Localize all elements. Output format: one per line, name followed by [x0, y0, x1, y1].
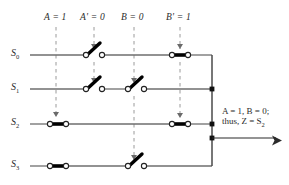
arrowhead-A [53, 112, 59, 117]
output-annotation-line2-text: thus, Z = S [222, 116, 262, 126]
control-column-Aprime [91, 27, 97, 83]
switch-terminal-right [63, 163, 68, 168]
row-S1 [30, 77, 212, 92]
output-annotation-line1: A = 1, B = 0; [222, 106, 269, 116]
arrowhead-Bprime-2 [177, 113, 183, 118]
column-label-B-prime: B' = 1 [166, 12, 191, 23]
row-label-S3: S3 [11, 158, 19, 171]
output-arrow [212, 136, 282, 146]
switch-terminal-left [47, 163, 52, 168]
switch-terminal-left [125, 86, 130, 91]
row-label-S2: S2 [11, 116, 19, 129]
row-S0 [30, 43, 212, 58]
switch-terminal-left [169, 121, 174, 126]
switch-S3-A-closed[interactable] [47, 163, 68, 168]
output-annotation: A = 1, B = 0; thus, Z = S2 [222, 106, 269, 129]
switch-terminal-right [141, 163, 146, 168]
row-label-S0: S0 [11, 47, 19, 60]
arrowhead-Bprime-1 [177, 44, 183, 49]
junction-dot-S1 [210, 87, 215, 92]
switch-S2-Bprime-closed[interactable] [169, 121, 190, 126]
switch-terminal-right [99, 86, 104, 91]
column-label-A: A = 1 [44, 12, 67, 23]
switch-terminal-right [99, 52, 104, 57]
output-bus [210, 55, 215, 166]
output-annotation-line2-sub: 2 [262, 121, 265, 128]
switch-terminal-right [141, 86, 146, 91]
control-column-B [131, 27, 137, 160]
output-arrowhead [272, 136, 282, 146]
switch-terminal-right [185, 52, 190, 57]
column-label-B: B = 0 [121, 12, 144, 23]
row-S2 [30, 121, 212, 126]
row-label-S3-sub: 3 [16, 164, 19, 171]
switch-terminal-left [169, 52, 174, 57]
column-label-A-prime: A' = 0 [80, 12, 105, 23]
row-label-S0-sub: 0 [16, 53, 19, 60]
switch-S0-Bprime-closed[interactable] [169, 52, 190, 57]
switch-S2-A-closed[interactable] [47, 121, 68, 126]
switch-terminal-right [63, 121, 68, 126]
control-column-A [53, 27, 59, 118]
diagram-canvas [0, 0, 289, 185]
row-label-S2-sub: 2 [16, 122, 19, 129]
switch-terminal-right [185, 121, 190, 126]
switch-terminal-left [83, 86, 88, 91]
switch-terminal-left [83, 52, 88, 57]
output-annotation-line2: thus, Z = S2 [222, 116, 269, 128]
row-label-S1-sub: 1 [16, 87, 19, 94]
row-label-S1: S1 [11, 81, 19, 94]
row-S3 [30, 154, 212, 169]
switch-terminal-left [125, 163, 130, 168]
switch-terminal-left [47, 121, 52, 126]
switch-network-diagram: Switch network implementing a 4-to-1 mul… [0, 0, 289, 185]
control-column-Bprime [177, 27, 183, 118]
junction-dot-S2 [210, 122, 215, 127]
